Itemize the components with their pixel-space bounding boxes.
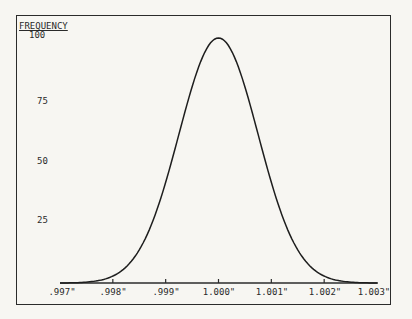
x-tick-0999: .999" [152,287,179,297]
x-tick-1003: 1.003" [358,287,391,297]
x-tick-1002: 1.002" [309,287,342,297]
x-tick-1001: 1.001" [256,287,289,297]
x-tick-0997: .997" [48,287,75,297]
distribution-curve [60,38,377,283]
plot-area [0,0,412,319]
x-tick-1000: 1.000" [203,287,236,297]
x-tick-0998: .998" [99,287,126,297]
